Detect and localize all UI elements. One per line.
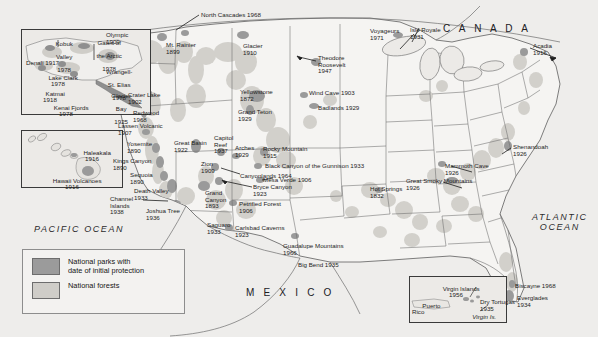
label-atlantic-ocean: ATLANTICOCEAN — [532, 212, 588, 232]
park-year: 1929 — [238, 115, 252, 122]
park-year: 1899 — [166, 48, 180, 55]
park-label-mt-rainier: Mt. Rainier1899 — [166, 42, 196, 55]
park-year: 1929 — [235, 151, 249, 158]
park-year: 1933 — [207, 228, 221, 235]
park-year: 1935 — [480, 305, 494, 312]
park-name: Badlands 1929 — [318, 104, 359, 111]
park-label-north-cascades: North Cascades 1968 — [201, 12, 261, 19]
park-label-theodore-roosevelt: TheodoreRoosevelt1947 — [318, 55, 346, 75]
park-name: Biscayne 1968 — [515, 282, 556, 289]
park-label-grand-teton: Grand Teton1929 — [238, 109, 272, 122]
park-year: 1893 — [205, 202, 219, 209]
hawaii-inset: Haleakala1916 Hawaii Volcanoes1916 — [21, 130, 123, 188]
legend-swatch-national-forest — [32, 282, 60, 299]
park-year: 1890 — [113, 164, 127, 171]
park-label-zion: Zion1909 — [201, 161, 215, 174]
park-label-channel-islands: ChannelIslands1938 — [110, 196, 133, 216]
park-label-wind-cave: Wind Cave 1903 — [309, 90, 355, 97]
park-label-death-valley: Death Valley1933 — [134, 188, 169, 201]
park-year: 1909 — [201, 167, 215, 174]
park-label-acadia: Acadia1916 — [533, 43, 552, 56]
park-year: 1890 — [130, 178, 144, 185]
park-label-great-basin: Great Basin1922 — [174, 140, 207, 153]
park-name: Black Canyon of the Gunnison 1933 — [265, 162, 364, 169]
park-label-mesa-verde: Mesa Verde 1906 — [263, 177, 312, 184]
park-year: 1832 — [370, 192, 384, 199]
park-label-hot-springs: Hot Springs1832 — [370, 186, 402, 199]
park-label-grand-canyon: GrandCanyon1893 — [205, 190, 226, 210]
label-pacific-ocean: PACIFIC OCEAN — [34, 224, 124, 234]
park-year: 1947 — [318, 67, 332, 74]
national-parks-map: Kobuk Valley 1978 Gates of the Arctic 19… — [0, 0, 598, 337]
park-name: North Cascades 1968 — [201, 11, 261, 18]
park-year: 1909 — [106, 38, 120, 45]
map-legend: National parks with date of initial prot… — [22, 249, 185, 314]
park-label-black-canyon: Black Canyon of the Gunnison 1933 — [265, 163, 364, 170]
park-label-carlsbad-caverns: Carlsbad Caverns1923 — [235, 225, 285, 238]
park-label-big-bend: Big Bend 1935 — [298, 262, 339, 269]
legend-label-national-parks: National parks with date of initial prot… — [68, 258, 144, 275]
park-year: 1926 — [445, 169, 459, 176]
park-label-badlands: Badlands 1929 — [318, 105, 359, 112]
park-label-bryce-canyon: Bryce Canyon1923 — [253, 184, 292, 197]
park-label-biscayne: Biscayne 1968 — [515, 283, 556, 290]
legend-swatch-national-park — [32, 258, 60, 275]
park-label-kings-canyon: Kings Canyon1890 — [113, 158, 152, 171]
inset-park-denali: Denali 1917 — [26, 60, 59, 67]
park-year: 1906 — [239, 207, 253, 214]
park-label-saguaro: Saguaro1933 — [207, 222, 230, 235]
label-canada: C A N A D A — [443, 23, 531, 34]
inset-park-hawaii-volcanoes: Hawaii Volcanoes1916 — [42, 171, 101, 197]
park-year: 1937 — [214, 147, 228, 154]
inset-park-kenai-fjords: Kenai Fjords1978 — [43, 98, 88, 124]
park-label-capitol-reef: CapitolReef1937 — [214, 135, 233, 155]
park-year: 1936 — [146, 214, 160, 221]
park-year: 1907 — [118, 129, 132, 136]
park-label-petrified-forest: Petrified Forest1906 — [239, 201, 281, 214]
park-label-everglades: Everglades1934 — [517, 295, 548, 308]
park-year: 1931 — [410, 33, 424, 40]
park-year: 1938 — [110, 208, 124, 215]
label-mexico: M E X I C O — [246, 287, 335, 298]
inset-park-haleakala: Haleakala1916 — [73, 143, 111, 169]
park-year: 1872 — [240, 95, 254, 102]
park-label-great-smoky-mountains: Great Smoky Mountains1926 — [406, 178, 472, 191]
park-year: 1971 — [370, 34, 384, 41]
park-year: 1916 — [533, 49, 547, 56]
park-label-arches: Arches1929 — [235, 145, 254, 158]
park-label-guadalupe-mountains: Guadalupe Mountains1966 — [283, 243, 344, 256]
park-label-glacier: Glacier1910 — [243, 43, 263, 56]
park-year: 1902 — [128, 98, 142, 105]
park-label-crater-lake: Crater Lake1902 — [128, 92, 160, 105]
park-label-olympic: Olympic1909 — [106, 32, 128, 45]
park-name: Big Bend 1935 — [298, 261, 339, 268]
park-label-dry-tortugas: Dry Tortugas1935 — [480, 299, 515, 312]
park-label-voyageurs: Voyageurs1971 — [370, 28, 399, 41]
park-label-mammoth-cave: Mammoth Cave1926 — [445, 163, 489, 176]
park-year: 1910 — [243, 49, 257, 56]
legend-row-forests: National forests — [32, 282, 184, 299]
park-name: Mesa Verde 1906 — [263, 176, 312, 183]
park-year: 1890 — [127, 147, 141, 154]
legend-label-national-forests: National forests — [68, 282, 119, 291]
park-label-yellowstone: Yellowstone1872 — [240, 89, 273, 102]
inset-place-puerto-rico: PuertoRico — [412, 296, 441, 322]
park-label-isle-royale: Isle Royale1931 — [410, 27, 441, 40]
park-year: 1915 — [263, 152, 277, 159]
park-label-joshua-tree: Joshua Tree1936 — [146, 208, 180, 221]
park-year: 1934 — [517, 301, 531, 308]
park-label-lassen-volcanic: Lassen Volcanic1907 — [118, 123, 163, 136]
park-year: 1966 — [283, 249, 297, 256]
park-year: 1923 — [235, 231, 249, 238]
park-year: 1926 — [513, 150, 527, 157]
park-name: Wind Cave 1903 — [309, 89, 355, 96]
park-year: 1926 — [406, 184, 420, 191]
park-label-yosemite: Yosemite1890 — [127, 141, 152, 154]
legend-row-parks: National parks with date of initial prot… — [32, 258, 184, 275]
park-label-sequoia: Sequoia1890 — [130, 172, 153, 185]
park-year: 1922 — [174, 146, 188, 153]
park-label-shenandoah: Shenandoah1926 — [513, 144, 548, 157]
park-year: 1933 — [134, 194, 148, 201]
park-year: 1923 — [253, 190, 267, 197]
park-label-rocky-mountain: Rocky Mountain1915 — [263, 146, 307, 159]
